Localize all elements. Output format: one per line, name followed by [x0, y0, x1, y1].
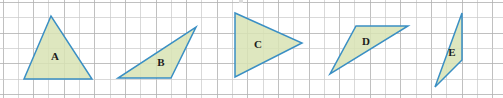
triangle-e-label: E: [448, 46, 455, 58]
triangle-b-label: B: [157, 56, 165, 68]
grid-canvas: ABCDE: [0, 0, 503, 98]
triangle-d-label: D: [362, 35, 370, 47]
triangles-figure: ABCDE: [0, 0, 503, 98]
triangle-a-label: A: [51, 50, 59, 62]
triangle-c-label: C: [254, 38, 262, 50]
scan-artifact: [239, 0, 243, 3]
